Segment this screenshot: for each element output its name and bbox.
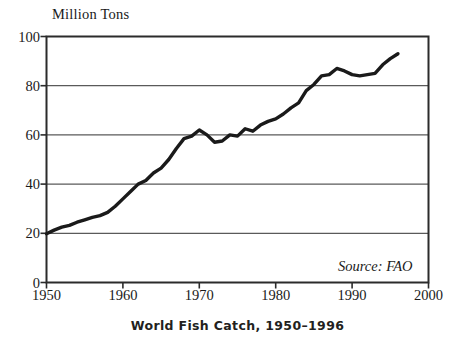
- chart-caption: World Fish Catch, 1950–1996: [0, 318, 475, 333]
- chart-figure: Million Tons 020406080100 19501960197019…: [0, 0, 475, 353]
- x-tick-label: 1960: [93, 287, 153, 304]
- x-tick-label: 1950: [17, 287, 77, 304]
- x-tick-label: 1980: [246, 287, 306, 304]
- x-tick-labels: 195019601970198019902000: [0, 0, 475, 353]
- x-tick-label: 2000: [399, 287, 459, 304]
- x-tick-label: 1990: [322, 287, 382, 304]
- x-tick-label: 1970: [169, 287, 229, 304]
- source-annotation: Source: FAO: [338, 258, 413, 275]
